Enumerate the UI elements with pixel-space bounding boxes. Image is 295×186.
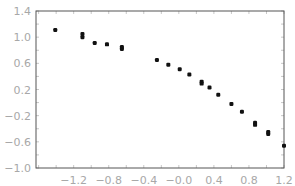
- data-point: [178, 67, 182, 71]
- data-point: [105, 42, 109, 46]
- plot-frame: [36, 11, 284, 168]
- y-tick-label: −0.2: [4, 110, 31, 123]
- data-point: [253, 123, 257, 127]
- y-tick-label: 0.6: [14, 57, 32, 70]
- data-point: [187, 72, 191, 76]
- x-tick-label: −0.0: [165, 174, 192, 186]
- minor-ticks: [36, 11, 284, 168]
- data-point: [266, 132, 270, 136]
- scatter-chart: 1.41.00.60.2−0.2−0.6−1.0 −1.2−0.8−0.4−0.…: [0, 0, 295, 186]
- y-tick-label: −0.6: [4, 136, 31, 149]
- y-tick-label: −1.0: [4, 162, 31, 175]
- y-axis-labels: 1.41.00.60.2−0.2−0.6−1.0: [4, 5, 31, 175]
- data-point: [208, 86, 212, 90]
- data-point: [166, 63, 170, 67]
- x-tick-label: 0.8: [240, 174, 258, 186]
- data-point: [240, 110, 244, 114]
- data-point: [155, 58, 159, 62]
- data-point: [120, 47, 124, 51]
- x-axis-labels: −1.2−0.8−0.4−0.00.40.81.2: [60, 174, 292, 186]
- data-point: [216, 93, 220, 97]
- data-point: [53, 28, 57, 32]
- y-tick-label: 1.4: [14, 5, 32, 18]
- data-point: [80, 35, 84, 39]
- y-tick-label: 1.0: [14, 31, 32, 44]
- data-point: [229, 102, 233, 106]
- x-tick-label: −0.8: [95, 174, 122, 186]
- x-tick-label: 0.4: [205, 174, 223, 186]
- y-tick-label: 0.2: [14, 84, 32, 97]
- x-tick-label: −0.4: [130, 174, 157, 186]
- x-tick-label: 1.2: [275, 174, 293, 186]
- data-points: [53, 28, 286, 148]
- data-point: [200, 82, 204, 86]
- x-tick-label: −1.2: [60, 174, 87, 186]
- data-point: [282, 144, 286, 148]
- data-point: [93, 41, 97, 45]
